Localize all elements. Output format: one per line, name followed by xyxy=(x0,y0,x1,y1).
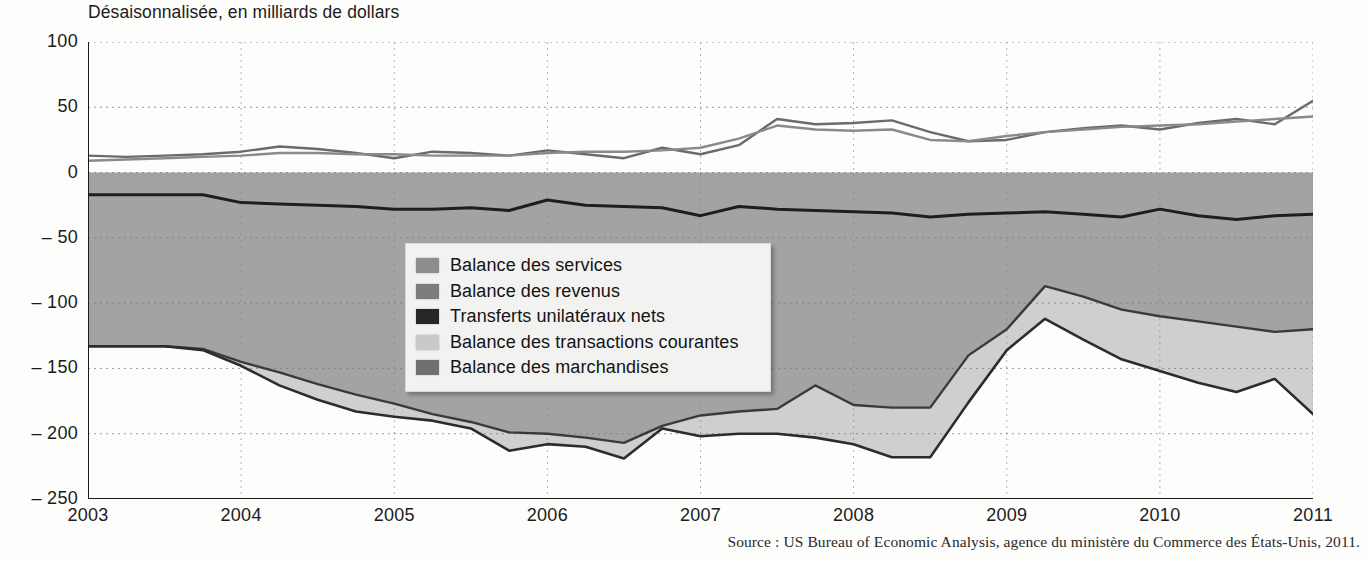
x-tick-label: 2009 xyxy=(986,505,1027,526)
legend-item[interactable]: Balance des services xyxy=(416,253,758,279)
x-tick-label: 2005 xyxy=(374,505,415,526)
legend-label-courantes: Balance des transactions courantes xyxy=(450,332,739,353)
legend-label-transferts: Transferts unilatéraux nets xyxy=(450,306,665,327)
legend-item[interactable]: Balance des marchandises xyxy=(416,355,758,381)
x-tick-label: 2006 xyxy=(527,505,568,526)
x-tick-label: 2004 xyxy=(221,505,262,526)
legend-label-services: Balance des services xyxy=(450,255,622,276)
y-tick-label: 100 xyxy=(2,31,78,52)
legend-label-revenus: Balance des revenus xyxy=(450,281,620,302)
legend-item[interactable]: Balance des transactions courantes xyxy=(416,330,758,356)
chart-subtitle: Désaisonnalisée, en milliards de dollars xyxy=(88,2,399,23)
legend-swatch-marchandises xyxy=(416,360,439,375)
x-tick-label: 2011 xyxy=(1293,505,1333,526)
y-tick-label: – 100 xyxy=(2,292,78,313)
y-tick-label: – 150 xyxy=(2,357,78,378)
legend-item[interactable]: Transferts unilatéraux nets xyxy=(416,304,758,330)
legend-swatch-revenus xyxy=(416,284,439,299)
y-tick-label: – 50 xyxy=(2,227,78,248)
y-tick-label: 50 xyxy=(2,96,78,117)
x-tick-label: 2007 xyxy=(680,505,721,526)
x-tick-label: 2008 xyxy=(833,505,874,526)
x-tick-label: 2003 xyxy=(67,505,108,526)
y-tick-label: 0 xyxy=(2,162,78,183)
source-note: Source : US Bureau of Economic Analysis,… xyxy=(727,533,1360,551)
x-tick-label: 2010 xyxy=(1139,505,1180,526)
legend-item[interactable]: Balance des revenus xyxy=(416,279,758,305)
legend-swatch-services xyxy=(416,258,439,273)
legend-swatch-courantes xyxy=(416,335,439,350)
y-tick-label: – 200 xyxy=(2,423,78,444)
legend-label-marchandises: Balance des marchandises xyxy=(450,357,669,378)
chart-figure: Désaisonnalisée, en milliards de dollars… xyxy=(0,0,1366,562)
chart-legend: Balance des services Balance des revenus… xyxy=(405,243,771,392)
legend-swatch-transferts xyxy=(416,309,439,324)
